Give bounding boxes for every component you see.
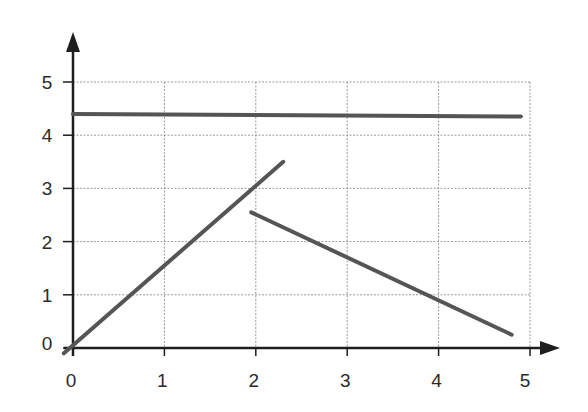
- x-tick-label: 3: [340, 370, 351, 391]
- y-tick-label: 2: [42, 232, 53, 253]
- y-tick-label: 0: [42, 333, 53, 354]
- axes: [64, 32, 560, 356]
- x-tick-label: 4: [431, 370, 442, 391]
- y-tick-label: 3: [42, 178, 53, 199]
- rising-line: [64, 162, 283, 354]
- y-axis-arrow-icon: [66, 32, 80, 52]
- x-tick-label: 1: [157, 370, 168, 391]
- line-chart: 012345012345: [0, 0, 588, 412]
- horizontal-line: [73, 114, 521, 117]
- x-axis-arrow-icon: [540, 341, 560, 355]
- tick-labels: 012345012345: [42, 72, 531, 391]
- y-tick-label: 5: [42, 72, 53, 93]
- grid: [73, 82, 530, 348]
- x-tick-label: 2: [249, 370, 260, 391]
- y-tick-label: 1: [42, 285, 53, 306]
- falling-line: [251, 212, 511, 334]
- x-tick-label: 0: [66, 370, 77, 391]
- x-tick-label: 5: [520, 370, 531, 391]
- series-lines: [64, 114, 521, 353]
- y-tick-label: 4: [42, 125, 53, 146]
